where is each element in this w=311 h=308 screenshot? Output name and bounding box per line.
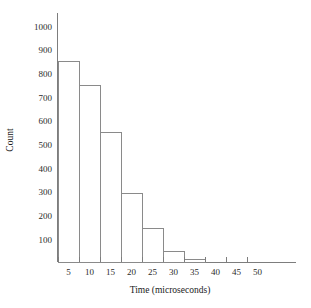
y-axis-title: Count bbox=[5, 128, 15, 152]
chart-canvas: 1000 900 800 700 600 500 400 300 200 100… bbox=[0, 0, 311, 308]
histogram-bar-15-20 bbox=[100, 133, 121, 262]
histogram-bar-30-35 bbox=[163, 251, 184, 262]
y-tick-label-200: 200 bbox=[39, 211, 53, 221]
y-tick-label-600: 600 bbox=[39, 116, 53, 126]
histogram-bar-25-30 bbox=[142, 228, 163, 262]
y-tick-label-800: 800 bbox=[39, 69, 53, 79]
histogram-bar-20-25 bbox=[121, 193, 142, 262]
x-tick-label-45: 45 bbox=[232, 267, 242, 277]
histogram-bar-10-15 bbox=[79, 85, 100, 262]
y-tick-label-900: 900 bbox=[39, 45, 53, 55]
x-axis-title: Time (microseconds) bbox=[130, 285, 211, 296]
y-tick-label-1000: 1000 bbox=[34, 22, 53, 32]
x-tick-label-15: 15 bbox=[106, 267, 116, 277]
y-tick-label-700: 700 bbox=[39, 93, 53, 103]
x-tick-label-5: 5 bbox=[66, 267, 71, 277]
x-tick-label-25: 25 bbox=[148, 267, 158, 277]
y-tick-label-400: 400 bbox=[39, 164, 53, 174]
x-tick-label-35: 35 bbox=[190, 267, 200, 277]
y-tick-label-500: 500 bbox=[39, 140, 53, 150]
x-tick-label-30: 30 bbox=[169, 267, 179, 277]
y-tick-label-100: 100 bbox=[39, 235, 53, 245]
histogram-bar-35-40 bbox=[184, 259, 205, 262]
histogram-chart: 1000 900 800 700 600 500 400 300 200 100… bbox=[0, 0, 311, 308]
x-tick-label-20: 20 bbox=[127, 267, 137, 277]
y-tick-label-300: 300 bbox=[39, 187, 53, 197]
histogram-bar-5-10 bbox=[58, 62, 79, 262]
x-tick-label-40: 40 bbox=[211, 267, 221, 277]
x-tick-label-50: 50 bbox=[253, 267, 263, 277]
x-tick-label-10: 10 bbox=[85, 267, 95, 277]
